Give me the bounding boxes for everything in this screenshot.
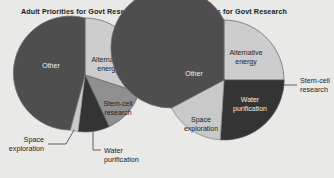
- slice-label-stem-cell-research-line1: Stem-cell: [103, 100, 133, 107]
- leader-line-space-exploration: [48, 130, 74, 144]
- slice-label-other: Other: [42, 62, 60, 69]
- slice-label-stem-cell-research-line2: research: [104, 109, 131, 116]
- pie-chart-teen: Other Alternative energy Water purificat…: [161, 18, 334, 178]
- slice-label-water-purification-line1: Water: [241, 96, 260, 103]
- callout-stem-cell-research-line1: Stem-cell: [300, 76, 330, 85]
- callout-space-exploration-line1: Space: [24, 135, 44, 144]
- slice-label-alternative-energy-line2: energy: [235, 58, 257, 66]
- callout-space-exploration-line2: exploration: [9, 144, 44, 153]
- slice-label-space-exploration-line1: Space: [191, 116, 211, 124]
- figure-two-pie-charts: Adult Priorities for Govt Research Other…: [0, 0, 334, 178]
- slice-label-alternative-energy-line1: Alternative: [229, 49, 262, 56]
- slice-label-other: Other: [185, 70, 203, 77]
- callout-water-purification-line1: Water: [104, 146, 124, 155]
- callout-water-purification-line2: purification: [104, 155, 139, 164]
- pie-slice-other: [13, 16, 85, 130]
- slice-label-water-purification-line2: purification: [233, 105, 267, 113]
- callout-stem-cell-research-line2: research: [300, 85, 328, 94]
- leader-line-water-purification: [93, 132, 101, 150]
- slice-label-space-exploration-line2: exploration: [184, 125, 218, 133]
